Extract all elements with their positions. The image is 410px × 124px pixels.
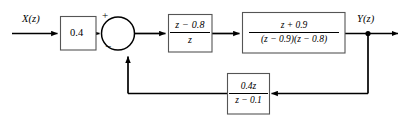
gain-block-value: 0.4 (70, 28, 83, 39)
block-diagram: X(z) Y(z) + − 0.4 z − 0.8 z z + 0.9 (z −… (0, 0, 410, 124)
feedback-fraction-bar (229, 93, 268, 94)
plant-numerator: z + 0.9 (249, 20, 339, 30)
feedback-numerator: 0.4z (229, 81, 268, 91)
plant-denominator: (z − 0.9)(z − 0.8) (249, 34, 339, 44)
sum-positive-sign: + (102, 10, 108, 21)
takeoff-node-dot (365, 31, 370, 36)
sum-negative-sign: − (105, 41, 111, 52)
plant-transfer-function: z + 0.9 (z − 0.9)(z − 0.8) (249, 20, 339, 44)
feedback-denominator: z − 0.1 (229, 95, 268, 105)
compensator-numerator: z − 0.8 (170, 19, 210, 30)
plant-fraction-bar (249, 32, 339, 33)
compensator-fraction-bar (170, 32, 210, 33)
feedback-transfer-function: 0.4z z − 0.1 (229, 81, 268, 105)
input-signal-label: X(z) (22, 14, 40, 25)
compensator-transfer-function: z − 0.8 z (170, 19, 210, 45)
output-signal-label: Y(z) (357, 14, 374, 25)
compensator-denominator: z (170, 34, 210, 45)
